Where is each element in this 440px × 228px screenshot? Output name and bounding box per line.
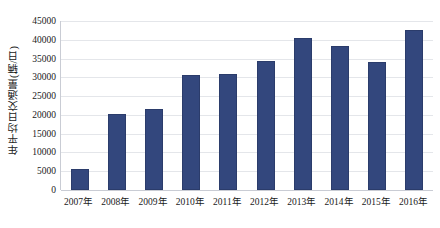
bar[interactable] [182, 75, 200, 190]
bar-slot [396, 21, 433, 190]
bar-slot [61, 21, 98, 190]
bar[interactable] [257, 61, 275, 190]
x-axis-tick-label: 2013年 [283, 194, 320, 214]
x-axis-tick-label: 2010年 [172, 194, 209, 214]
y-axis-tick-label: 45000 [32, 16, 56, 26]
y-axis-tick-label: 0 [51, 185, 56, 195]
bar-slot [321, 21, 358, 190]
bar[interactable] [108, 114, 126, 190]
bar[interactable] [405, 30, 423, 190]
y-axis-tick-label: 10000 [32, 147, 56, 157]
bar[interactable] [368, 62, 386, 190]
x-axis-tick-label: 2007年 [60, 194, 97, 214]
bar[interactable] [294, 38, 312, 190]
x-axis-tick-label: 2012年 [246, 194, 283, 214]
bar-slot [173, 21, 210, 190]
y-axis-tick-labels: 0500010000150002000025000300003500040000… [22, 15, 58, 196]
x-axis-tick-label: 2016年 [395, 194, 432, 214]
x-axis-tick-label: 2014年 [320, 194, 357, 214]
y-axis-title-text: 年平均日交通量(辆/日) [9, 46, 20, 155]
bar-slot [98, 21, 135, 190]
x-axis-tick-labels: 2007年2008年2009年2010年2011年2012年2013年2014年… [60, 194, 432, 214]
bar[interactable] [145, 109, 163, 190]
x-axis-tick-label: 2011年 [209, 194, 246, 214]
bar[interactable] [219, 74, 237, 190]
bar-chart: 年平均日交通量(辆/日) 050001000015000200002500030… [0, 0, 440, 228]
y-axis-title: 年平均日交通量(辆/日) [4, 0, 24, 200]
y-axis-tick-label: 25000 [32, 91, 56, 101]
y-axis-tick-label: 35000 [32, 54, 56, 64]
y-axis-tick-label: 20000 [32, 110, 56, 120]
bar-slot [284, 21, 321, 190]
x-axis-tick-label: 2008年 [97, 194, 134, 214]
bar-slot [135, 21, 172, 190]
plot-area [60, 21, 433, 190]
bar-slot [359, 21, 396, 190]
y-axis-tick-label: 30000 [32, 72, 56, 82]
bars-layer [61, 21, 433, 190]
bar-slot [210, 21, 247, 190]
bar-slot [247, 21, 284, 190]
y-axis-tick-label: 5000 [37, 166, 56, 176]
y-axis-tick-label: 15000 [32, 129, 56, 139]
bar[interactable] [71, 169, 89, 190]
x-axis-tick-label: 2009年 [134, 194, 171, 214]
x-axis-tick-label: 2015年 [358, 194, 395, 214]
gridline [61, 190, 433, 191]
bar[interactable] [331, 46, 349, 190]
y-axis-tick-label: 40000 [32, 35, 56, 45]
